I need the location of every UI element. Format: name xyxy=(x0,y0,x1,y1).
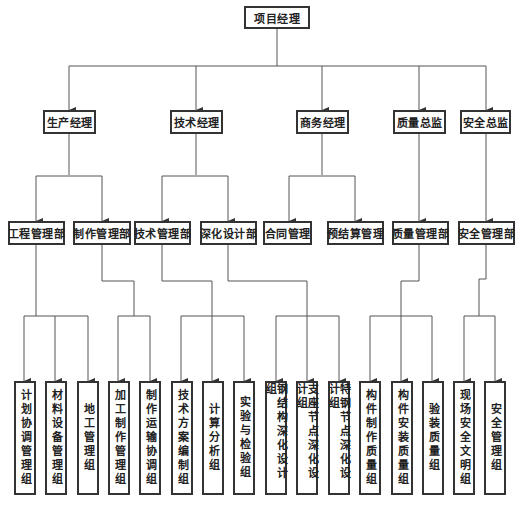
node-label: 商务经理 xyxy=(300,114,346,130)
node-label: 支座节点深化设计组 xyxy=(296,383,318,493)
node-label: 技术经理 xyxy=(174,114,220,130)
node-component-installation-quality-group: 构件安装质量组 xyxy=(391,381,413,495)
node-technical-dept: 技术管理部 xyxy=(134,221,191,245)
node-label: 计算分析组 xyxy=(208,403,219,473)
node-safety-director: 安全总监 xyxy=(460,110,511,134)
node-material-equipment-group: 材料设备管理组 xyxy=(45,381,67,495)
node-processing-fabrication-group: 加工制作管理组 xyxy=(108,381,130,495)
node-safety-management-group: 安全管理组 xyxy=(484,381,506,495)
node-budget-settlement: 预结算管理 xyxy=(327,221,384,245)
node-label: 技术管理部 xyxy=(134,225,192,241)
node-fabrication-dept: 制作管理部 xyxy=(73,221,131,245)
node-label: 质量总监 xyxy=(397,114,443,130)
node-label: 合同管理 xyxy=(265,225,311,241)
node-label: 特钢节点深化设计组 xyxy=(328,383,350,493)
node-label: 工程管理部 xyxy=(8,225,66,241)
node-production-manager: 生产经理 xyxy=(43,110,96,134)
node-calculation-analysis-group: 计算分析组 xyxy=(202,381,224,495)
node-label: 材料设备管理组 xyxy=(51,389,62,487)
node-label: 质量管理部 xyxy=(392,225,450,241)
node-project-manager: 项目经理 xyxy=(244,6,310,29)
node-detailing-design-dept: 深化设计部 xyxy=(200,221,257,245)
node-label: 安全管理部 xyxy=(458,225,516,241)
node-site-management-group: 地工管理组 xyxy=(77,381,99,495)
node-site-safety-civilization-group: 现场安全文明组 xyxy=(453,381,475,495)
node-quality-director: 质量总监 xyxy=(393,110,446,134)
node-technical-plan-group: 技术方案编制组 xyxy=(171,381,193,495)
node-quality-dept: 质量管理部 xyxy=(392,221,449,245)
node-technical-manager: 技术经理 xyxy=(170,110,223,134)
node-label: 深化设计部 xyxy=(200,225,258,241)
node-label: 验装质量组 xyxy=(428,403,439,473)
node-label: 生产经理 xyxy=(47,114,93,130)
node-business-manager: 商务经理 xyxy=(296,110,349,134)
node-fabrication-transport-group: 制作运输协调组 xyxy=(139,381,161,495)
node-component-fabrication-quality-group: 构件制作质量组 xyxy=(359,381,381,495)
node-contract-management: 合同管理 xyxy=(263,221,312,245)
node-label: 计划协调管理组 xyxy=(20,389,31,487)
node-label: 现场安全文明组 xyxy=(459,389,470,487)
node-label: 安全管理组 xyxy=(490,403,501,473)
node-bearing-joint-detailing-group: 支座节点深化设计组 xyxy=(296,381,318,495)
node-steel-structure-detailing-group: 钢结构深化设计组 xyxy=(265,381,287,495)
node-testing-inspection-group: 实验与检验组 xyxy=(233,381,255,495)
node-inspection-quality-group: 验装质量组 xyxy=(422,381,444,495)
node-label: 制作管理部 xyxy=(73,225,131,241)
node-label: 构件安装质量组 xyxy=(397,389,408,487)
node-safety-dept: 安全管理部 xyxy=(458,221,515,245)
node-label: 技术方案编制组 xyxy=(177,389,188,487)
org-chart: 项目经理 生产经理 技术经理 商务经理 质量总监 安全总监 工程管理部 制作管理… xyxy=(0,0,517,509)
node-label: 加工制作管理组 xyxy=(114,389,125,487)
node-label: 地工管理组 xyxy=(83,403,94,473)
node-planning-coordination-group: 计划协调管理组 xyxy=(14,381,36,495)
node-label: 钢结构深化设计组 xyxy=(265,383,287,493)
node-label: 实验与检验组 xyxy=(239,396,250,480)
node-label: 制作运输协调组 xyxy=(145,389,156,487)
node-special-steel-joint-detailing-group: 特钢节点深化设计组 xyxy=(328,381,350,495)
node-label: 项目经理 xyxy=(254,10,300,26)
node-label: 预结算管理 xyxy=(327,225,385,241)
node-engineering-dept: 工程管理部 xyxy=(8,221,65,245)
node-label: 安全总监 xyxy=(463,114,509,130)
node-label: 构件制作质量组 xyxy=(365,389,376,487)
